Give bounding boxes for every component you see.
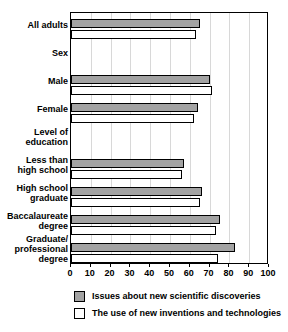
- chart-row: [71, 97, 267, 125]
- y-axis-label-line: High school: [0, 183, 68, 193]
- bar-chart: All adultsSexMaleFemaleLevel ofeducation…: [0, 0, 288, 332]
- legend-swatch-icon: [74, 291, 85, 302]
- y-axis-label-male: Male: [0, 76, 68, 86]
- chart-row: [71, 209, 267, 237]
- x-axis-tick: [110, 264, 111, 267]
- y-axis-label-line: Baccalaureate: [0, 211, 68, 221]
- bar-inventions: [71, 170, 182, 179]
- y-axis-label-line: high school: [0, 165, 68, 175]
- bar-inventions: [71, 30, 196, 39]
- y-axis-label-line: degree: [0, 221, 68, 231]
- x-axis-tick: [228, 264, 229, 267]
- bar-inventions: [71, 226, 216, 235]
- bar-inventions: [71, 254, 218, 263]
- chart-row: [71, 181, 267, 209]
- bar-inventions: [71, 198, 200, 207]
- y-axis-label-baccalaureate-degree: Baccalaureatedegree: [0, 211, 68, 231]
- y-axis-label-line: professional: [0, 244, 68, 254]
- y-axis-label-graduate-professional-degree: Graduate/professionaldegree: [0, 234, 68, 264]
- y-axis-category-labels: All adultsSexMaleFemaleLevel ofeducation…: [0, 12, 68, 264]
- y-axis-label-level-of-education: Level ofeducation: [0, 127, 68, 147]
- chart-row: [71, 69, 267, 97]
- bar-discoveries: [71, 75, 210, 84]
- chart-row: [71, 125, 267, 153]
- bar-discoveries: [71, 187, 202, 196]
- chart-row: [71, 153, 267, 181]
- y-axis-label-line: Graduate/: [0, 234, 68, 244]
- legend-label: The use of new inventions and technologi…: [92, 308, 281, 319]
- bar-discoveries: [71, 215, 220, 224]
- x-axis: 0102030405060708090100: [70, 264, 268, 280]
- y-axis-label-line: All adults: [0, 20, 68, 30]
- y-axis-label-high-school-graduate: High schoolgraduate: [0, 183, 68, 203]
- y-axis-label-all-adults: All adults: [0, 20, 68, 30]
- y-axis-label-line: graduate: [0, 193, 68, 203]
- chart-legend: Issues about new scientific discoveriesT…: [74, 288, 288, 322]
- x-axis-tick: [189, 264, 190, 267]
- y-axis-label-sex: Sex: [0, 48, 68, 58]
- y-axis-label-line: degree: [0, 254, 68, 264]
- bar-inventions: [71, 86, 212, 95]
- bar-discoveries: [71, 243, 235, 252]
- legend-item[interactable]: The use of new inventions and technologi…: [74, 305, 288, 322]
- y-axis-label-female: Female: [0, 104, 68, 114]
- bar-discoveries: [71, 19, 200, 28]
- y-axis-label-line: Less than: [0, 155, 68, 165]
- y-axis-label-line: Male: [0, 76, 68, 86]
- bar-inventions: [71, 114, 194, 123]
- legend-swatch-icon: [74, 308, 85, 319]
- y-axis-label-line: Level of: [0, 127, 68, 137]
- y-axis-label-line: Female: [0, 104, 68, 114]
- x-axis-tick-label: 100: [256, 268, 280, 279]
- y-axis-label-line: education: [0, 137, 68, 147]
- x-axis-tick: [149, 264, 150, 267]
- x-axis-tick: [248, 264, 249, 267]
- x-axis-tick: [90, 264, 91, 267]
- chart-row: [71, 237, 267, 265]
- legend-item[interactable]: Issues about new scientific discoveries: [74, 288, 288, 305]
- chart-row: [71, 41, 267, 69]
- x-axis-tick: [169, 264, 170, 267]
- x-axis-tick: [129, 264, 130, 267]
- x-axis-tick: [209, 264, 210, 267]
- chart-row: [71, 13, 267, 41]
- y-axis-label-less-than-high-school: Less thanhigh school: [0, 155, 68, 175]
- x-axis-tick: [70, 264, 71, 267]
- plot-area: [70, 12, 268, 264]
- y-axis-label-line: Sex: [0, 48, 68, 58]
- x-axis-tick: [268, 264, 269, 267]
- bar-discoveries: [71, 103, 198, 112]
- legend-label: Issues about new scientific discoveries: [92, 291, 261, 302]
- bar-discoveries: [71, 159, 184, 168]
